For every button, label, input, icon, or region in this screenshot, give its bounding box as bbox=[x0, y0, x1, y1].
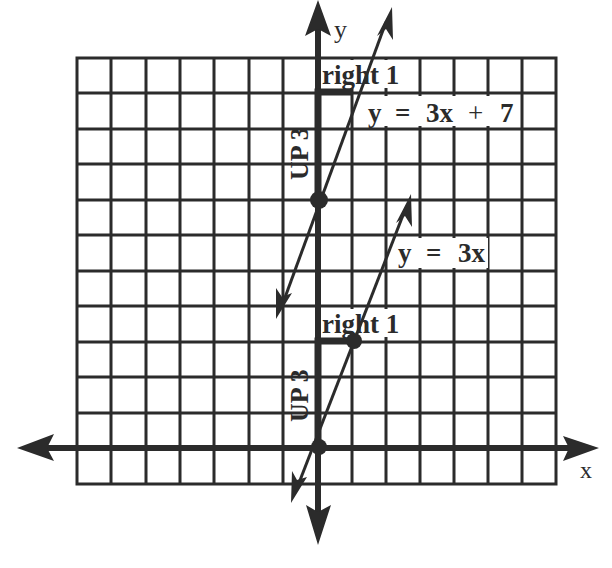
eq2-equals: = bbox=[426, 238, 441, 268]
eq1-equals: = bbox=[395, 98, 410, 128]
lower-right-1-label: right 1 bbox=[322, 309, 399, 339]
eq1-3x: 3x bbox=[426, 98, 454, 128]
eq1-7: 7 bbox=[500, 98, 514, 128]
x-axis-label: x bbox=[580, 457, 592, 483]
upper-step-path bbox=[318, 92, 352, 200]
eq1-y: y bbox=[368, 98, 382, 128]
lower-up-3-label: UP 3 bbox=[285, 369, 314, 422]
y-axis-label: y bbox=[334, 15, 347, 44]
eq2-y: y bbox=[398, 238, 412, 268]
coordinate-graph: y x right 1 UP 3 y = 3x + 7 y = 3x right… bbox=[0, 0, 612, 568]
eq2-3x: 3x bbox=[458, 238, 486, 268]
eq1-plus: + bbox=[468, 98, 483, 128]
upper-right-1-label: right 1 bbox=[322, 60, 399, 90]
y-intercept-point-7 bbox=[310, 191, 328, 209]
line2-bottom-arrow-icon bbox=[291, 471, 307, 503]
upper-up-3-label: UP 3 bbox=[285, 127, 314, 180]
origin-point bbox=[311, 439, 327, 455]
line1-top-arrow-icon bbox=[377, 7, 393, 40]
